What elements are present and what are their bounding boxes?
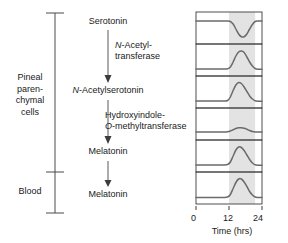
- arrow-head-hiomt: [105, 136, 112, 144]
- pathway-node-n-acetylserotonin-text: -Acetylserotonin: [79, 85, 144, 95]
- bracket-label-pineal-line4: cells: [21, 107, 39, 117]
- xtick-label-24: 24: [253, 213, 263, 223]
- pathway-node-serotonin: Serotonin: [38, 16, 178, 26]
- pathway-node-n-acetylserotonin: N-Acetylserotonin: [38, 85, 178, 95]
- italic-prefix-o-enzyme: O: [105, 121, 112, 131]
- enzyme-label-hiomt-line2: -methyltransferase: [112, 121, 187, 131]
- enzyme-label-nat-line2: transferase: [115, 51, 160, 61]
- bracket-label-pineal-line3: chymal: [16, 95, 45, 105]
- x-axis-title: Time (hrs): [196, 226, 268, 236]
- enzyme-label-nat-line1: -Acetyl-: [122, 40, 153, 50]
- xtick-label-12: 12: [223, 213, 233, 223]
- arrow-head-secretion: [105, 180, 112, 187]
- enzyme-label-hiomt-line1: Hydroxyindole-: [105, 110, 165, 120]
- bracket-label-pineal-line1: Pineal: [17, 72, 42, 82]
- pathway-node-melatonin-pineal: Melatonin: [38, 146, 178, 156]
- circadian-panel-stack: [196, 12, 262, 204]
- xtick-label-0: 0: [191, 213, 196, 223]
- bracket-label-pineal: Pineal paren- chymal cells: [8, 72, 52, 118]
- x-axis: [196, 206, 262, 210]
- pathway-arrows: [105, 30, 112, 187]
- arrow-head-nat: [105, 75, 112, 83]
- enzyme-label-n-acetyltransferase: N-Acetyl-transferase: [115, 40, 185, 62]
- pathway-node-melatonin-blood: Melatonin: [38, 189, 178, 199]
- enzyme-label-hydroxyindole-o-methyltransferase: Hydroxyindole-O-methyltransferase: [105, 110, 190, 132]
